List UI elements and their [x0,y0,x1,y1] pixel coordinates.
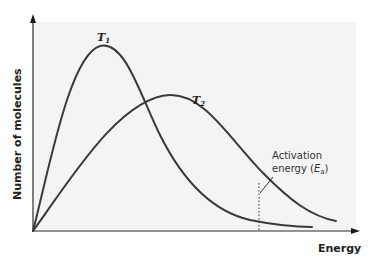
plot-background [34,22,356,231]
x-axis-label: Energy [318,242,361,255]
y-axis-arrow-icon [30,14,36,23]
maxwell-boltzmann-chart: T1 T2 Activation energy (Ea) Number of m… [0,0,371,263]
activation-energy-label-line1: Activation [272,150,322,161]
y-axis-label: Number of molecules [11,68,24,200]
